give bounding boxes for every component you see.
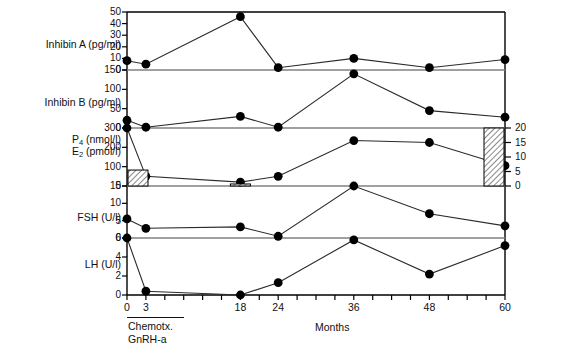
data-point-lh-48 [425, 270, 434, 279]
right-ytick-label-5: 5 [515, 167, 539, 177]
panel-label-fsh: FSH (U/l) [77, 211, 121, 223]
data-point-inhibin-b-18 [236, 112, 245, 121]
data-point-lh-24 [274, 278, 283, 287]
ytick-label-fsh-10: 10 [95, 198, 121, 208]
chart-canvas [0, 0, 576, 354]
data-point-p4-e2-48 [425, 138, 434, 147]
ytick-label-inhibin-a-10: 10 [95, 53, 121, 63]
right-ytick-label-10: 10 [515, 152, 539, 162]
treatment-line-2: GnRH-a [128, 333, 167, 345]
data-point-inhibin-a-48 [425, 63, 434, 72]
p4-bar-60 [484, 128, 504, 186]
ytick-label-lh-2: 2 [95, 271, 121, 281]
data-point-p4-e2-0 [123, 124, 132, 133]
ytick-label-inhibin-a-40: 40 [95, 19, 121, 29]
data-point-lh-18 [236, 291, 245, 300]
xtick-label-24: 24 [263, 302, 293, 313]
data-point-inhibin-b-0 [123, 116, 132, 125]
data-point-inhibin-b-3 [142, 123, 151, 132]
xtick-label-18: 18 [225, 302, 255, 313]
data-point-inhibin-a-24 [274, 63, 283, 72]
right-ytick-label-0: 0 [515, 181, 539, 191]
data-point-fsh-60 [501, 221, 510, 230]
ytick-label-inhibin-b-100: 100 [95, 84, 121, 94]
xtick-label-3: 3 [131, 302, 161, 313]
data-point-inhibin-b-36 [349, 69, 358, 78]
data-point-fsh-0 [123, 215, 132, 224]
data-point-p4-e2-36 [349, 136, 358, 145]
series-line-p4-e2 [127, 128, 505, 182]
data-point-inhibin-a-36 [349, 54, 358, 63]
data-point-p4-e2-24 [274, 172, 283, 181]
panel-label-inhibin-a: Inhibin A (pg/ml) [46, 38, 121, 50]
ytick-label-p4-e2-100: 100 [95, 162, 121, 172]
series-line-lh [127, 238, 505, 295]
data-point-inhibin-a-18 [236, 12, 245, 21]
treatment-bracket [127, 317, 184, 318]
p4-bar-0 [128, 170, 148, 186]
data-point-fsh-18 [236, 223, 245, 232]
treatment-line-1: Chemotx. [128, 320, 173, 332]
xtick-label-36: 36 [339, 302, 369, 313]
ytick-label-p4-e2-300: 300 [95, 123, 121, 133]
p4-bar-18 [230, 184, 250, 186]
x-axis-title: Months [315, 321, 349, 333]
data-point-inhibin-a-3 [142, 60, 151, 69]
panel-label-lh: LH (U/l) [85, 258, 121, 270]
multi-panel-hormone-chart: 0102030405005010015001002003000510152005… [0, 0, 576, 354]
data-point-inhibin-b-24 [274, 123, 283, 132]
series-line-inhibin-a [127, 17, 505, 68]
data-point-inhibin-a-60 [501, 55, 510, 64]
panel-label-p4-e2: P4 (nmol/l)E2 (pmol/l) [72, 133, 121, 157]
xtick-label-48: 48 [414, 302, 444, 313]
ytick-label-lh-0: 0 [95, 290, 121, 300]
data-point-fsh-3 [142, 224, 151, 233]
xtick-label-60: 60 [490, 302, 520, 313]
series-line-inhibin-b [127, 74, 505, 127]
data-point-fsh-24 [274, 232, 283, 241]
ytick-label-inhibin-a-50: 50 [95, 7, 121, 17]
ytick-label-lh-6: 6 [95, 233, 121, 243]
data-point-fsh-36 [349, 182, 358, 191]
panel-label-inhibin-b: Inhibin B (pg/ml) [45, 96, 121, 108]
data-point-fsh-48 [425, 209, 434, 218]
data-point-inhibin-a-0 [123, 56, 132, 65]
data-point-lh-0 [123, 234, 132, 243]
right-ytick-label-15: 15 [515, 138, 539, 148]
series-line-fsh [127, 186, 505, 236]
treatment-annotation: Chemotx.GnRH-a [128, 320, 173, 346]
right-ytick-label-20: 20 [515, 123, 539, 133]
ytick-label-inhibin-b-150: 150 [95, 65, 121, 75]
data-point-lh-3 [142, 287, 151, 296]
ytick-label-fsh-15: 15 [95, 181, 121, 191]
data-point-inhibin-b-60 [501, 113, 510, 122]
data-point-lh-60 [501, 241, 510, 250]
data-point-lh-36 [349, 236, 358, 245]
data-point-inhibin-b-48 [425, 106, 434, 115]
